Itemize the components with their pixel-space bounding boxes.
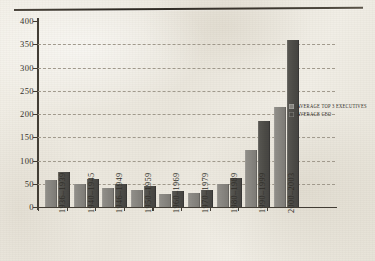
y-axis-tick-label: 300	[20, 63, 34, 73]
scanned-page: 400350300250200150100500 1936–19391940–1…	[0, 0, 375, 261]
x-axis-tick-label: 1950–1959	[144, 173, 153, 213]
x-axis-tick-label: 1936–1939	[58, 173, 67, 213]
y-axis-tick-label: 250	[20, 86, 34, 96]
x-axis-tick-label: 1990–1999	[258, 173, 267, 213]
y-axis-tick-label: 350	[20, 39, 34, 49]
chart-legend: AVERAGE TOP 3 EXECUTIVES AVERAGE CEO	[289, 104, 367, 120]
legend-swatch-top-3-executives	[289, 104, 294, 109]
legend-swatch-average-ceo	[289, 112, 294, 117]
legend-label-top-3-executives: AVERAGE TOP 3 EXECUTIVES	[297, 104, 367, 110]
legend-item-top-3-executives: AVERAGE TOP 3 EXECUTIVES	[289, 104, 367, 109]
x-axis-tick-label: 1960–1969	[172, 173, 181, 213]
x-axis-tick-label: 1940–1945	[87, 173, 96, 213]
x-axis-tick-label: 1970–1979	[201, 173, 210, 213]
y-axis-tick-label: 200	[20, 109, 34, 119]
x-axis-labels: 1936–19391940–19451946–19491950–19591960…	[38, 0, 338, 261]
y-axis-tick-label: 400	[20, 16, 34, 26]
x-axis-tick-label: 1946–1949	[115, 173, 124, 213]
legend-label-average-ceo: AVERAGE CEO	[297, 112, 331, 118]
legend-item-average-ceo: AVERAGE CEO	[289, 112, 367, 117]
y-axis-labels: 400350300250200150100500	[0, 21, 34, 221]
y-axis-tick-label: 100	[20, 156, 34, 166]
y-axis-tick-label: 150	[20, 132, 34, 142]
x-axis-tick-label: 1980–1989	[230, 173, 239, 213]
x-axis-tick-label: 2000–2003	[287, 173, 296, 213]
